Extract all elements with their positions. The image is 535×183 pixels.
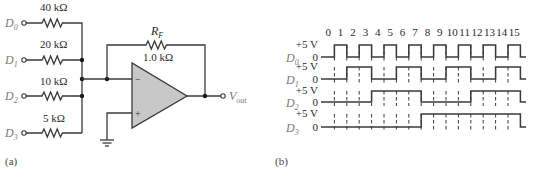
- output-label: Vout: [229, 89, 247, 105]
- junction-dot: [203, 94, 207, 98]
- ground-wire: [107, 113, 132, 140]
- input-label-d3: D3: [4, 126, 18, 142]
- resistor-5k: [26, 129, 82, 137]
- waveform-d0: [321, 45, 526, 57]
- slot-label: 6: [400, 26, 406, 38]
- input-row-d3: D3 5 kΩ: [4, 112, 82, 142]
- slot-labels: 0123456789101112131415: [325, 26, 520, 38]
- caption-a: (a): [5, 155, 18, 168]
- resistor-20k: [26, 56, 82, 64]
- slot-label: 4: [375, 26, 381, 38]
- slot-label: 3: [363, 26, 369, 38]
- input-terminal-d3: [22, 131, 26, 135]
- slot-label: 15: [509, 26, 521, 38]
- input-label-d1: D1: [4, 53, 18, 69]
- slot-label: 7: [412, 26, 418, 38]
- resistor-label-10k: 10 kΩ: [40, 75, 67, 87]
- resistor-label-20k: 20 kΩ: [40, 38, 67, 50]
- level-labels: +5 V0D0+5 V0D1+5 V0D2+5 V0D3: [285, 38, 319, 137]
- output-terminal: [221, 94, 225, 98]
- slot-label: 1: [338, 26, 344, 38]
- waveforms: [321, 45, 526, 127]
- caption-b: (b): [275, 155, 288, 168]
- slot-label: 10: [447, 26, 459, 38]
- circuit-diagram: D0 40 kΩ D1 20 kΩ D2 10 kΩ D3 5 kΩ: [4, 1, 247, 168]
- junction-dot: [80, 58, 84, 62]
- dac-figure: D0 40 kΩ D1 20 kΩ D2 10 kΩ D3 5 kΩ: [0, 0, 535, 183]
- input-terminal-d0: [22, 21, 26, 25]
- input-label-d2: D2: [4, 89, 18, 105]
- resistor-label-5k: 5 kΩ: [43, 112, 65, 124]
- slot-label: 11: [459, 26, 470, 38]
- slot-label: 8: [425, 26, 431, 38]
- input-label-d0: D0: [4, 16, 18, 32]
- resistor-10k: [26, 92, 82, 100]
- slot-label: 9: [437, 26, 443, 38]
- feedback-value: 1.0 kΩ: [143, 51, 173, 63]
- slot-label: 14: [496, 26, 508, 38]
- inverting-input-sign: −: [135, 74, 141, 85]
- slot-label: 2: [350, 26, 356, 38]
- input-row-d2: D2 10 kΩ: [4, 75, 82, 105]
- feedback-label: RF: [150, 24, 163, 40]
- input-terminal-d1: [22, 58, 26, 62]
- high-level-label: +5 V: [296, 38, 318, 50]
- resistor-label-40k: 40 kΩ: [40, 1, 67, 13]
- junction-dot: [80, 94, 84, 98]
- slot-label: 5: [387, 26, 393, 38]
- waveform-d1: [321, 67, 526, 79]
- noninverting-input-sign: +: [135, 108, 141, 119]
- slot-label: 12: [472, 26, 483, 38]
- high-level-label: +5 V: [296, 84, 318, 96]
- signal-label-d3: D3: [285, 121, 299, 137]
- high-level-label: +5 V: [296, 107, 318, 119]
- input-row-d1: D1 20 kΩ: [4, 38, 82, 69]
- timing-diagram: 0123456789101112131415 +5 V0D0+5 V0D1+5 …: [275, 26, 526, 168]
- input-terminal-d2: [22, 94, 26, 98]
- slot-label: 0: [325, 26, 331, 38]
- high-level-label: +5 V: [296, 60, 318, 72]
- slot-label: 13: [484, 26, 496, 38]
- low-level-label: 0: [313, 121, 319, 133]
- ground-icon: [100, 140, 114, 146]
